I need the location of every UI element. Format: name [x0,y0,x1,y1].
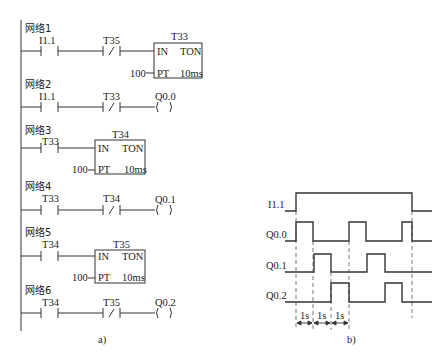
interval-label: 1s [317,310,326,321]
ladder-caption: a) [98,334,107,346]
waveform-i1-1 [285,193,432,211]
coil-symbol [157,205,172,215]
contact-label: T33 [42,193,59,204]
rung-wire [21,251,95,261]
rung-wire [21,143,95,153]
contact-label: T33 [42,136,59,147]
contact-label: T33 [103,91,120,102]
signal-label-i1-1: I1.1 [268,199,285,210]
timer-name: T35 [113,239,130,250]
network-label: 网络1 [25,22,51,34]
timer-in: IN [98,143,109,154]
nc-contact-slash [109,206,114,214]
preset-value: 100 [72,272,88,283]
contact-label: T35 [103,35,120,46]
preset-value: 100 [130,68,146,79]
coil-label: Q0.2 [155,297,176,308]
timer-name: T33 [171,31,188,42]
timer-type: TON [122,251,144,262]
coil-label: Q0.1 [155,194,176,205]
timing-diagram: I1.1 Q0.0 Q0.1 Q0.2 1s 1s 1s b) [266,193,432,346]
timer-name: T34 [112,129,130,140]
network-label: 网络5 [25,226,51,238]
timebase: 10ms [180,68,203,79]
interval-label: 1s [335,310,344,321]
rung-wire [21,102,155,112]
contact-label: T35 [103,297,120,308]
timebase: 10ms [122,272,145,283]
timebase: 10ms [124,164,147,175]
nc-contact-slash [109,309,114,317]
timer-pt: PT [157,68,170,79]
rung-wire [21,46,154,56]
network-label: 网络2 [25,78,51,90]
preset-value: 100 [72,164,88,175]
coil-label: Q0.0 [155,91,176,102]
waveform-q0-0 [285,222,432,241]
signal-label-q0-2: Q0.2 [266,290,287,301]
nc-contact-slash [109,47,114,55]
ladder-diagram: 网络1 I1.1 T35 T33 IN TON 100 PT 10ms 网络2 … [21,20,203,346]
coil-symbol [157,102,172,112]
network-1: 网络1 I1.1 T35 T33 IN TON 100 PT 10ms [21,22,203,79]
timer-type: TON [180,46,202,57]
contact-label: T34 [103,193,121,204]
network-label: 网络4 [25,180,51,192]
nc-contact-slash [109,103,114,111]
timer-in: IN [98,251,109,262]
signal-label-q0-1: Q0.1 [266,260,287,271]
network-5: 网络5 T34 T35 IN TON 100 PT 10ms [21,226,145,283]
interval-markers [297,321,348,325]
rung-wire [21,308,155,318]
contact-label: I1.1 [39,91,56,102]
network-2: 网络2 I1.1 T33 Q0.0 [21,78,176,112]
timer-in: IN [157,46,168,57]
contact-label: T34 [42,239,60,250]
timer-pt: PT [98,164,111,175]
contact-label: I1.1 [39,35,56,46]
waveform-q0-2 [285,283,432,302]
timer-type: TON [122,143,144,154]
network-3: 网络3 T33 T34 IN TON 100 PT 10ms [21,124,147,175]
network-label: 网络6 [25,284,51,296]
network-4: 网络4 T33 T34 Q0.1 [21,180,176,215]
network-label: 网络3 [25,124,51,136]
timing-caption: b) [347,334,356,346]
timer-pt: PT [98,272,111,283]
waveform-q0-1 [285,254,432,272]
plc-figure: 网络1 I1.1 T35 T33 IN TON 100 PT 10ms 网络2 … [0,0,447,364]
interval-label: 1s [300,310,309,321]
contact-label: T34 [42,297,60,308]
rung-wire [21,205,155,215]
network-6: 网络6 T34 T35 Q0.2 [21,284,176,318]
coil-symbol [157,308,172,318]
signal-label-q0-0: Q0.0 [266,229,287,240]
